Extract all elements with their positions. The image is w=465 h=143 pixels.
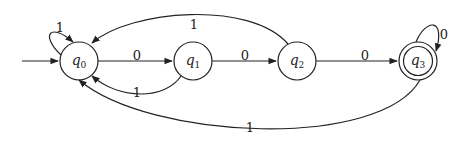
state-q2-label: q2 [290,52,305,71]
edge-q2-q3-label: 0 [361,48,369,63]
edge-q0-q1-label: 0 [133,48,141,63]
edge-q0-q0-label: 1 [56,20,64,35]
edge-q1-q0-label: 1 [133,85,141,100]
edge-q3-q3-label: 0 [440,27,448,42]
state-q1-label: q1 [186,52,201,71]
diagram-edges [0,0,465,143]
state-diagram: q0 q1 q2 q3 1 0 1 0 1 0 0 1 [0,0,465,143]
edge-q3-q0-label: 1 [246,120,254,135]
edge-q2-q0-label: 1 [190,17,198,32]
edge-q0-q0 [50,32,73,55]
edge-q1-q2-label: 0 [241,48,249,63]
state-q0-label: q0 [72,52,87,71]
state-q3-label: q3 [411,52,426,71]
